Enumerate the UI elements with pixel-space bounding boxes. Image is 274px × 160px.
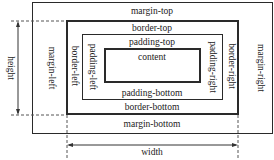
border-bottom-label: border-bottom	[125, 102, 180, 112]
border-right-label: border-right	[227, 43, 237, 89]
width-arrow-left-icon	[67, 143, 73, 147]
border-left-label: border-left	[70, 46, 80, 86]
height-arrow-down-icon	[16, 109, 20, 115]
padding-bottom-label: padding-bottom	[122, 88, 183, 98]
padding-left-label: padding-left	[88, 44, 98, 90]
padding-top-label: padding-top	[129, 37, 175, 47]
border-top-label: border-top	[132, 23, 172, 33]
margin-right-label: margin-right	[256, 44, 266, 92]
content-label: content	[138, 52, 166, 62]
height-arrow-up-icon	[16, 21, 20, 27]
margin-bottom-label: margin-bottom	[124, 119, 181, 129]
width-label: width	[141, 147, 163, 157]
width-arrow-right-icon	[232, 143, 238, 147]
padding-right-label: padding-right	[208, 41, 218, 93]
margin-top-label: margin-top	[131, 6, 173, 16]
margin-left-label: margin-left	[47, 47, 57, 90]
height-label: height	[6, 56, 16, 80]
